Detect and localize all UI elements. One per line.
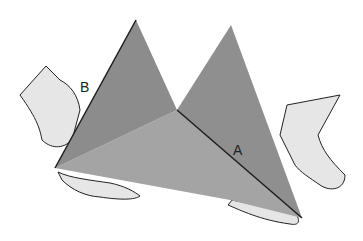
label-a: A [233,142,243,158]
folded-paper-figure: B A [0,0,363,241]
label-b: B [80,79,89,95]
